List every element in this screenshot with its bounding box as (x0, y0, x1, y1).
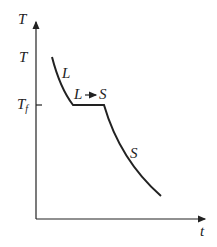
transition-label-from: L (73, 86, 82, 102)
tick-label-Tf: Tf (17, 96, 29, 114)
solid-label: S (130, 145, 138, 161)
transition-label-to: S (99, 86, 107, 102)
x-axis-label: t (200, 223, 205, 239)
tick-label-T: T (19, 49, 29, 65)
liquid-label: L (61, 65, 70, 81)
cooling-curve-diagram: T t T Tf L L S S (0, 0, 217, 247)
y-axis-label: T (18, 11, 28, 27)
